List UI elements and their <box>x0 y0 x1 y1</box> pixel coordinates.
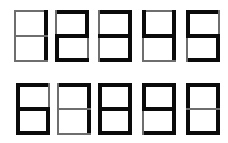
segment-g-bold <box>142 34 176 38</box>
segment-d-bold <box>55 58 89 62</box>
segment-g-bold <box>98 34 132 38</box>
segment-f-thin <box>14 10 16 36</box>
segment-a-thin <box>14 10 48 12</box>
segment-e-thin <box>186 36 188 62</box>
segment-e-bold <box>98 109 102 135</box>
segment-c-bold <box>44 36 48 62</box>
segment-f-bold <box>142 83 146 109</box>
segment-e-thin <box>142 36 144 62</box>
segment-e-thin <box>57 109 59 135</box>
segment-e-bold <box>16 109 20 135</box>
segment-d-bold <box>186 58 220 62</box>
segment-b-bold <box>87 83 91 109</box>
digit-figure-7 <box>57 83 91 135</box>
segment-e-thin <box>14 36 16 62</box>
segment-d-thin <box>57 133 91 135</box>
digit-figure-8 <box>98 83 132 135</box>
segment-a-bold <box>57 83 91 87</box>
segment-b-bold <box>216 83 220 109</box>
segment-e-bold <box>186 109 190 135</box>
segment-f-thin <box>98 10 100 36</box>
segment-d-bold <box>98 131 132 135</box>
segment-g-thin <box>14 35 48 37</box>
digit-figure-9 <box>142 83 176 135</box>
digit-figure-0 <box>186 83 220 135</box>
segment-d-bold <box>98 58 132 62</box>
segment-d-thin <box>142 60 176 62</box>
segment-a-bold <box>142 83 176 87</box>
segment-g-bold <box>16 107 50 111</box>
segment-a-bold <box>186 10 220 14</box>
segment-a-thin <box>142 10 176 12</box>
segment-f-thin <box>57 83 59 109</box>
segment-b-bold <box>44 10 48 36</box>
segment-g-thin <box>57 108 91 110</box>
segment-g-bold <box>55 34 89 38</box>
segment-c-bold <box>87 109 91 135</box>
segment-d-bold <box>186 131 220 135</box>
segment-g-bold <box>186 34 220 38</box>
segment-b-bold <box>172 83 176 109</box>
segment-f-bold <box>16 83 20 109</box>
segment-c-bold <box>172 36 176 62</box>
segment-b-bold <box>128 83 132 109</box>
segment-e-thin <box>142 109 144 135</box>
segment-e-bold <box>55 36 59 62</box>
segment-f-thin <box>55 10 57 36</box>
segment-f-bold <box>186 10 190 36</box>
segment-a-bold <box>98 10 132 14</box>
segment-a-bold <box>55 10 89 14</box>
segment-b-bold <box>85 10 89 36</box>
segment-f-bold <box>142 10 146 36</box>
segment-d-bold <box>142 131 176 135</box>
segment-e-thin <box>98 36 100 62</box>
segment-b-thin <box>48 83 50 109</box>
digit-figure-5 <box>186 10 220 62</box>
segment-a-bold <box>16 83 50 87</box>
segment-g-bold <box>98 107 132 111</box>
segment-g-bold <box>142 107 176 111</box>
segment-g-thin <box>186 108 220 110</box>
segment-a-bold <box>98 83 132 87</box>
segment-b-thin <box>218 10 220 36</box>
segment-d-bold <box>16 131 50 135</box>
segment-f-bold <box>98 83 102 109</box>
segment-a-bold <box>186 83 220 87</box>
digit-figure-4 <box>142 10 176 62</box>
digit-figure-2 <box>55 10 89 62</box>
digit-figure-1 <box>14 10 48 62</box>
digit-figure-3 <box>98 10 132 62</box>
segment-f-bold <box>186 83 190 109</box>
segment-b-bold <box>128 10 132 36</box>
segment-b-bold <box>172 10 176 36</box>
digit-figure-6 <box>16 83 50 135</box>
segment-d-thin <box>14 60 48 62</box>
